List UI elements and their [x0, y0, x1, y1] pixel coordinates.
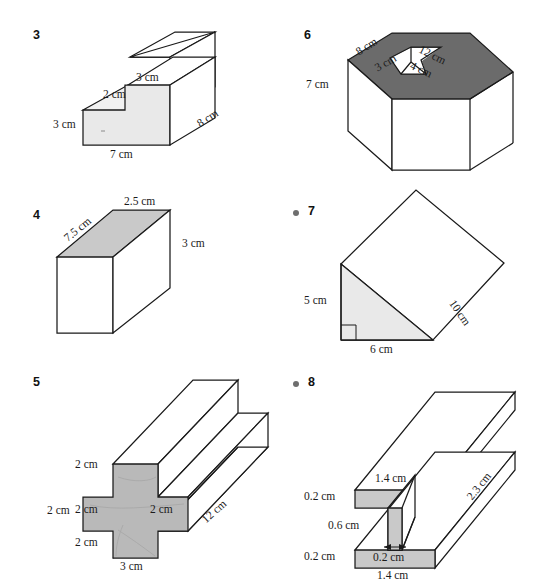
- figure-8-label-web-height: 0.6 cm: [328, 520, 359, 532]
- figure-7-drawing: [280, 185, 557, 365]
- figure-3-drawing: [0, 0, 280, 185]
- figure-5-label-top-arm: 2 cm: [75, 459, 98, 471]
- figure-3-label-width: 7 cm: [110, 149, 133, 161]
- figure-6-drawing: [280, 0, 557, 185]
- figure-4-drawing: [0, 185, 280, 365]
- figure-3: 3 3 cm 2 cm 3 cm 7 cm 8 cm: [0, 0, 280, 185]
- figure-5-label-center-right: 2 cm: [150, 504, 173, 516]
- figure-5: 5: [0, 365, 280, 579]
- figure-7-number: 7: [308, 204, 315, 218]
- figure-3-label-height: 3 cm: [53, 119, 76, 131]
- figure-5-label-bottom-arm: 2 cm: [75, 537, 98, 549]
- figure-4-label-3cm: 3 cm: [182, 238, 205, 250]
- figure-7-label-5cm: 5 cm: [304, 295, 327, 307]
- figure-4: 4 2.5 cm 7.5 cm 3 cm: [0, 185, 280, 365]
- figure-5-label-left-arm: 2 cm: [47, 505, 70, 517]
- figure-8-drawing: [280, 365, 557, 579]
- figure-5-label-center-left: 2 cm: [75, 504, 98, 516]
- figure-8-number: 8: [308, 375, 315, 389]
- figure-6-number: 6: [304, 28, 311, 42]
- figure-3-label-depth: 3 cm: [136, 72, 159, 84]
- figure-7-label-6cm: 6 cm: [370, 344, 393, 356]
- figure-3-label-step: 2 cm: [103, 89, 126, 101]
- figure-8-label-web-thickness: 0.2 cm: [373, 552, 404, 564]
- figure-7-bullet-icon: [293, 210, 299, 216]
- figure-3-number: 3: [33, 28, 40, 42]
- figure-8-label-top-thickness: 0.2 cm: [304, 491, 335, 503]
- figure-6-label-7cm: 7 cm: [306, 79, 329, 91]
- figure-8-label-top-width: 1.4 cm: [375, 473, 406, 485]
- figure-6: 6 8 cm 12 cm 3 cm 4 cm 7 cm: [280, 0, 557, 185]
- worksheet-page: 3 3 cm 2 cm 3 cm 7 cm 8 cm 6: [0, 0, 557, 579]
- figure-5-drawing: [0, 365, 280, 579]
- figure-7: 7 5 cm 6 cm 10 cm: [280, 185, 557, 365]
- figure-5-label-3cm: 3 cm: [120, 561, 143, 573]
- figure-8-label-bottom-width: 1.4 cm: [377, 570, 408, 579]
- figure-8-label-bottom-thickness: 0.2 cm: [304, 551, 335, 563]
- figure-4-number: 4: [33, 208, 40, 222]
- figure-8: 8 0.2 cm 1.4 cm: [280, 365, 557, 579]
- figure-8-bullet-icon: [293, 381, 299, 387]
- figure-5-number: 5: [33, 375, 40, 389]
- figure-4-label-2-5cm: 2.5 cm: [124, 196, 155, 208]
